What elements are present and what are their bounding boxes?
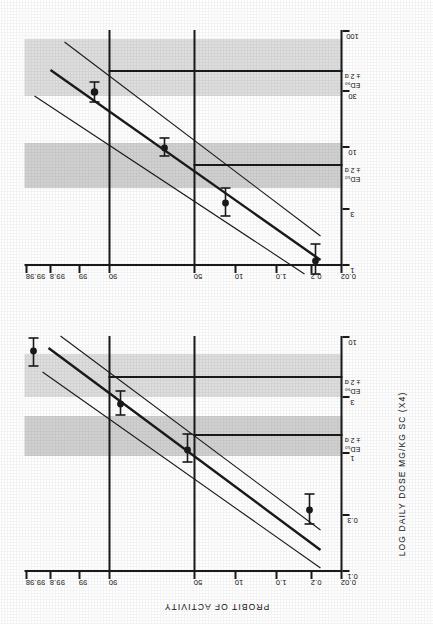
ed90-text-right: ED₉₀ <box>344 82 359 89</box>
x-tick-label-left-4: 10 <box>348 338 356 347</box>
plot-area-left: 0.02 0.2 1.0 10 50 90 99 99.8 99.98 0.1 … <box>24 336 342 572</box>
x-tick-right-1 <box>342 208 349 210</box>
x-tick-label-right-3: 30 <box>348 92 356 101</box>
x-tick-label-left-1: 0.3 <box>347 516 357 525</box>
y-tick-label-right-6: 99 <box>78 272 87 281</box>
panel-left: 0.02 0.2 1.0 10 50 90 99 99.8 99.98 0.1 … <box>0 318 433 618</box>
ed50-label-left: ED₅₀ ± 2 α <box>344 436 360 454</box>
x-tick-label-left-0: 0.1 <box>347 572 357 581</box>
y-tick-label-right-5: 90 <box>108 272 117 281</box>
y-tick-label-left-5: 90 <box>108 578 117 587</box>
x-tick-label-left-3: 3 <box>350 398 354 407</box>
y-axis-left <box>24 570 342 572</box>
y-tick-label-right-3: 10 <box>234 272 243 281</box>
ed50-sigma-right: ± 2 α <box>344 167 360 174</box>
y-tick-label-right-4: 50 <box>193 272 202 281</box>
x-tick-label-left-2: 1 <box>350 454 354 463</box>
y-tick-label-left-6: 99 <box>78 578 87 587</box>
regression-lines-left <box>24 336 342 572</box>
ed90-label-left: ED₉₀ ± 2 α <box>344 378 360 396</box>
y-tick-label-left-3: 10 <box>234 578 243 587</box>
ed90-sigma-right: ± 2 α <box>344 73 360 80</box>
panel-right: 0.02 0.2 1.0 10 50 90 99 99.8 99.98 1 3 … <box>0 12 433 312</box>
y-tick-label-right-7: 99.8 <box>49 272 64 281</box>
x-tick-label-right-2: 10 <box>348 148 356 157</box>
ed50-text-left: ED₅₀ <box>344 446 359 453</box>
ed50-sigma-left: ± 2 α <box>344 437 360 444</box>
x-axis-right <box>340 30 342 266</box>
x-axis-left <box>340 336 342 572</box>
y-tick-label-left-1: 0.2 <box>310 578 321 587</box>
x-tick-right-0 <box>342 264 349 266</box>
x-axis-title: LOG DAILY DOSE MG/KG SC (X4) <box>396 392 406 557</box>
y-tick-label-right-1: 0.2 <box>310 272 321 281</box>
y-axis-title: PROBIT OF ACTIVITY <box>163 602 269 612</box>
y-tick-label-right-8: 99.98 <box>25 272 45 281</box>
y-tick-label-left-4: 50 <box>193 578 202 587</box>
x-tick-label-right-4: 100 <box>346 32 359 41</box>
ed50-text-right: ED₅₀ <box>344 176 359 183</box>
y-axis-right <box>24 264 342 266</box>
probit-figure: 0.02 0.2 1.0 10 50 90 99 99.8 99.98 0.1 … <box>0 0 433 624</box>
x-tick-label-right-0: 1 <box>350 266 354 275</box>
ed90-sigma-left: ± 2 α <box>344 379 360 386</box>
x-tick-label-right-1: 3 <box>350 210 354 219</box>
ed50-label-right: ED₅₀ ± 2 α <box>344 166 360 184</box>
plot-area-right: 0.02 0.2 1.0 10 50 90 99 99.8 99.98 1 3 … <box>24 30 342 266</box>
y-tick-label-left-7: 99.8 <box>49 578 64 587</box>
y-tick-label-left-2: 1.0 <box>275 578 286 587</box>
y-tick-label-left-8: 99.98 <box>25 578 45 587</box>
y-tick-label-right-2: 1.0 <box>275 272 286 281</box>
regression-lines-right <box>24 30 342 266</box>
ed90-text-left: ED₉₀ <box>344 388 359 395</box>
ed90-label-right: ED₉₀ ± 2 α <box>344 72 360 90</box>
